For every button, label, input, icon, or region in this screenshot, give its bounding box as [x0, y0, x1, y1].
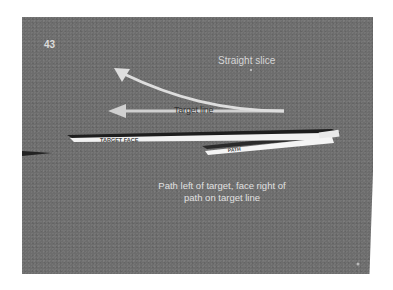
- slide-title: Straight slice: [218, 55, 275, 66]
- slide-photo: TARGET FACE PATH 43 Straight slice Targe…: [22, 17, 373, 274]
- caption-line-1: Path left of target, face right of: [122, 180, 322, 192]
- slide-number: 43: [44, 39, 55, 50]
- svg-text:TARGET FACE: TARGET FACE: [100, 137, 139, 143]
- decorative-dot: [250, 69, 252, 71]
- diagram-graphics: TARGET FACE PATH: [22, 17, 373, 274]
- slide-caption: Path left of target, face right of path …: [122, 180, 322, 204]
- caption-line-2: path on target line: [122, 192, 322, 204]
- left-edge-stick-shadow: [22, 151, 52, 156]
- target-line-label: Target line: [174, 105, 213, 115]
